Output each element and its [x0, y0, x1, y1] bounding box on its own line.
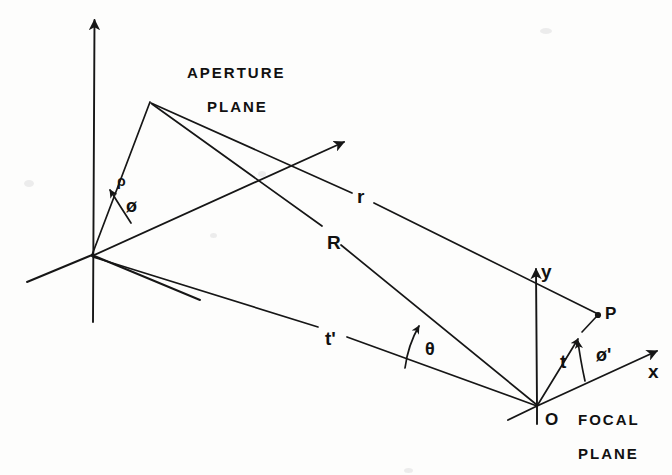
ray-r-segment-lower: [374, 203, 598, 314]
ray-R-segment-upper: [152, 104, 322, 226]
focal-plane-label-line1: FOCAL: [578, 412, 640, 427]
ray-t-prime-segment-right: [347, 337, 537, 406]
figure-canvas: APERTURE PLANE FOCAL PLANE ρ ø r R t' θ …: [0, 0, 672, 475]
p-connector-segment: [582, 316, 597, 332]
ray-r-segment-upper: [151, 103, 352, 193]
aperture-plane-label-line1: APERTURE: [187, 65, 286, 80]
R-label: R: [327, 233, 341, 252]
rho-label: ρ: [117, 174, 126, 188]
y-axis-label: y: [541, 262, 552, 281]
point-p-marker: [595, 312, 601, 318]
origin-O-label: O: [545, 411, 558, 428]
focal-plane-label-line2: PLANE: [578, 446, 639, 461]
point-P-label: P: [605, 305, 616, 322]
x-axis-label: x: [648, 362, 659, 381]
theta-label: θ: [425, 340, 435, 358]
aperture-left-axis: [27, 255, 92, 282]
phi-prime-angle-arc: [578, 341, 585, 381]
aperture-vertical-axis: [93, 20, 95, 322]
t-label: t: [560, 352, 566, 371]
ray-t-prime-segment-left: [93, 257, 318, 327]
focal-y-axis: [536, 269, 537, 406]
t-prime-label: t': [325, 329, 336, 348]
r-label: r: [357, 187, 364, 206]
phi-label: ø: [126, 197, 137, 215]
aperture-plane-label-line2: PLANE: [207, 99, 268, 114]
focal-x-axis-tail: [508, 406, 537, 420]
phi-prime-label: ø': [596, 346, 611, 364]
